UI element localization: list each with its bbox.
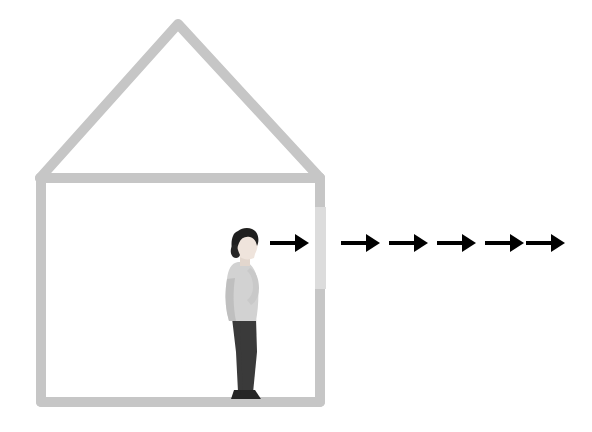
- scene-svg: [0, 0, 592, 432]
- arrow-5: [485, 234, 524, 252]
- person-front-shoe: [239, 390, 261, 399]
- arrow-6: [526, 234, 565, 252]
- house-group: [40, 24, 326, 402]
- arrow-3: [389, 234, 428, 252]
- person-front-leg: [240, 318, 257, 393]
- illustration-canvas: Person leaving a house Minimal line illu…: [0, 0, 592, 432]
- person-figure: [226, 228, 262, 399]
- arrow-1-inside: [270, 234, 309, 252]
- arrow-2: [341, 234, 380, 252]
- house-roof-icon: [40, 24, 320, 178]
- house-doorway-opening: [315, 207, 326, 289]
- arrow-4: [437, 234, 476, 252]
- arrow-row: [270, 234, 565, 252]
